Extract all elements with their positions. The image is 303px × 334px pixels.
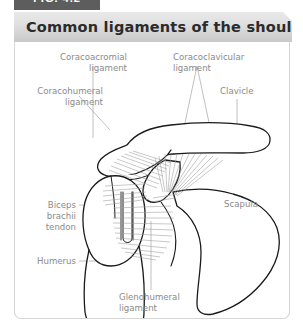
label-clavicle-text: Clavicle xyxy=(220,86,280,97)
figure-body: Coracoacromial ligament Coracoclavicular… xyxy=(14,42,290,319)
label-biceps-line3: tendon xyxy=(15,222,76,233)
label-glenohumeral-line1: Glenohumeral xyxy=(119,292,229,303)
label-clavicle: Clavicle xyxy=(220,86,280,97)
label-coracohumeral-ligament: Coracohumeral ligament xyxy=(15,86,103,108)
label-coracoacromial-line1: Coracoacromial xyxy=(15,52,127,63)
label-coracoclavicular-line1: Coracoclavicular xyxy=(173,52,283,63)
label-glenohumeral-line2: ligament xyxy=(119,303,229,314)
label-biceps-line2: brachii xyxy=(15,211,76,222)
label-coracohumeral-line2: ligament xyxy=(15,97,103,108)
figure-title-bar: Common ligaments of the shoulder xyxy=(14,12,292,42)
figure-number-tab: FIG. 4.2 xyxy=(14,0,100,10)
leader-coracoclavicular-left xyxy=(183,66,197,132)
label-scapula-text: Scapula xyxy=(211,199,271,210)
figure-panel: FIG. 4.2 Common ligaments of the shoulde… xyxy=(0,0,303,334)
humerus-shaft-lateral xyxy=(84,250,89,319)
label-humerus: Humerus xyxy=(15,256,76,267)
label-glenohumeral-ligament: Glenohumeral ligament xyxy=(119,292,229,314)
label-coracoacromial-line2: ligament xyxy=(15,63,127,74)
label-biceps-brachii-tendon: Biceps brachii tendon xyxy=(15,200,76,233)
label-scapula: Scapula xyxy=(211,199,271,210)
figure-title: Common ligaments of the shoulder xyxy=(26,12,286,42)
label-coracohumeral-line1: Coracohumeral xyxy=(15,86,103,97)
bone-outlines xyxy=(83,123,279,319)
leader-coracoclavicular-right xyxy=(197,66,211,132)
label-humerus-text: Humerus xyxy=(15,256,76,267)
label-coracoclavicular-line2: ligament xyxy=(173,63,283,74)
label-coracoclavicular-ligament: Coracoclavicular ligament xyxy=(173,52,283,74)
glenoid-rim xyxy=(161,202,176,266)
shoulder-anatomy-illustration xyxy=(15,42,290,319)
label-coracoacromial-ligament: Coracoacromial ligament xyxy=(15,52,127,74)
biceps-brachii-tendon xyxy=(123,192,132,243)
humeral-head xyxy=(83,176,145,266)
label-biceps-line1: Biceps xyxy=(15,200,76,211)
